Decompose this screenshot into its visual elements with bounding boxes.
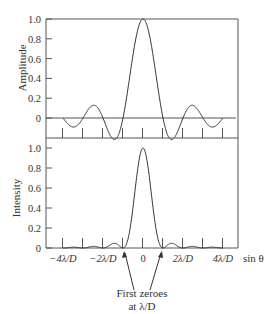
y-tick-label: 0 bbox=[36, 243, 41, 254]
y-tick-label: 1.0 bbox=[28, 143, 41, 154]
arrow-right bbox=[150, 253, 161, 290]
x-axis-label: sin θ bbox=[243, 252, 264, 264]
annotation-line-1: First zeroes bbox=[116, 287, 167, 299]
lower-y-label: Intensity bbox=[10, 178, 22, 217]
x-tick-label: 2λ/D bbox=[173, 253, 194, 264]
y-tick-label: 0.4 bbox=[28, 203, 42, 214]
lower-x-ticks: −4λ/D−2λ/D02λ/D4λ/D bbox=[49, 238, 233, 264]
x-tick-label: 0 bbox=[140, 253, 145, 264]
y-tick-label: 0.6 bbox=[28, 183, 41, 194]
x-tick-label: 4λ/D bbox=[213, 253, 234, 264]
y-tick-label: 0 bbox=[36, 113, 41, 124]
arrow-left bbox=[125, 253, 134, 290]
y-tick-label: 0.8 bbox=[28, 163, 41, 174]
y-tick-label: 0.2 bbox=[28, 93, 41, 104]
annotation-line-2: at λ/D bbox=[128, 300, 155, 312]
y-tick-label: 0.8 bbox=[28, 34, 41, 45]
x-tick-label: −4λ/D bbox=[49, 253, 77, 264]
amplitude-curve bbox=[63, 19, 223, 140]
y-tick-label: 1.0 bbox=[28, 14, 41, 25]
arrow-right-head bbox=[158, 251, 163, 258]
y-tick-label: 0.4 bbox=[28, 73, 42, 84]
intensity-curve bbox=[63, 148, 223, 248]
y-tick-label: 0.6 bbox=[28, 54, 41, 65]
upper-plot: 1.00.80.60.40.20 Amplitude bbox=[16, 14, 238, 140]
lower-y-ticks: 1.00.80.60.40.20 bbox=[28, 143, 52, 254]
diffraction-chart: 1.00.80.60.40.20 Amplitude 1.00.80.60.40… bbox=[0, 0, 276, 314]
x-tick-label: −2λ/D bbox=[89, 253, 117, 264]
arrow-left-head bbox=[122, 251, 127, 258]
upper-y-label: Amplitude bbox=[16, 44, 28, 91]
lower-plot: 1.00.80.60.40.20 −4λ/D−2λ/D02λ/D4λ/D Int… bbox=[10, 138, 264, 264]
upper-x-ticks bbox=[63, 128, 223, 138]
y-tick-label: 0.2 bbox=[28, 223, 41, 234]
upper-y-ticks: 1.00.80.60.40.20 bbox=[28, 14, 52, 124]
